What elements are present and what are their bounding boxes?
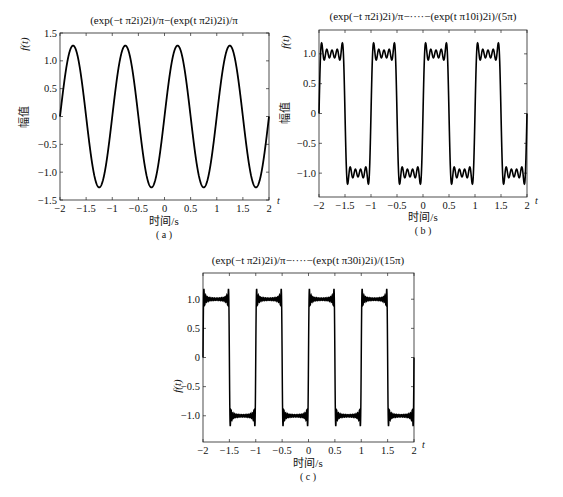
x-tick-label: −1.5	[77, 203, 96, 214]
panel-a-curve	[60, 46, 269, 188]
x-tick-label: 2	[524, 200, 529, 211]
x-tick-label: 2	[411, 445, 416, 456]
panel-b-curve	[319, 43, 527, 184]
panel-c-xlabel: 时间/s	[293, 457, 322, 469]
x-tick-label: −2	[197, 445, 208, 456]
panel-a-ytop-label: f(t)	[18, 37, 31, 51]
panel-c-title: (exp(−t π2i)2i)/π−····−(exp(t π30i)2i)/(…	[212, 254, 405, 267]
x-tick-label: 0	[162, 203, 167, 214]
y-tick-label: −0.5	[297, 138, 316, 149]
x-tick-label: −1	[365, 200, 376, 211]
x-tick-label: 1	[359, 445, 364, 456]
figure: (exp(−t π2i)2i)/π−(exp(t π2i)2i)/π −2−1.…	[0, 0, 563, 497]
x-tick-label: −1.5	[335, 200, 354, 211]
x-tick-label: 0.5	[442, 200, 455, 211]
y-tick-label: −1.0	[181, 410, 200, 421]
panel-b-t-label: t	[535, 195, 538, 206]
x-tick-label: −0.5	[129, 203, 148, 214]
panel-b-title: (exp(−t π2i)2i)/π−····−(exp(t π10i)2i)/(…	[330, 10, 517, 23]
y-tick-label: 1.0	[187, 294, 200, 305]
x-tick-label: 1	[472, 200, 477, 211]
x-tick-label: −2	[313, 200, 324, 211]
panel-a-caption: ( a )	[156, 229, 172, 241]
panel-c-ylabel: f(t)	[171, 379, 184, 393]
y-tick-label: 1.0	[303, 48, 316, 59]
y-tick-label: 1.5	[44, 28, 57, 39]
panel-c: (exp(−t π2i)2i)/π−····−(exp(t π30i)2i)/(…	[171, 254, 425, 483]
panel-c-curve	[203, 289, 414, 426]
y-tick-label: −0.5	[181, 381, 200, 392]
x-tick-label: −0.5	[387, 200, 406, 211]
x-tick-label: −1.5	[220, 445, 239, 456]
panel-b: (exp(−t π2i)2i)/π−····−(exp(t π10i)2i)/(…	[279, 10, 538, 237]
panel-a-ylabel: 幅值	[18, 106, 30, 128]
x-tick-label: 1.5	[494, 200, 507, 211]
panel-b-caption: ( b )	[415, 225, 432, 237]
y-tick-label: −1.5	[38, 195, 57, 206]
x-tick-label: −0.5	[273, 445, 292, 456]
x-tick-label: 1.5	[236, 203, 249, 214]
x-tick-label: 0.5	[328, 445, 341, 456]
y-tick-label: 0	[311, 108, 316, 119]
x-tick-label: 0	[420, 200, 425, 211]
y-tick-label: 0.5	[44, 83, 57, 94]
y-tick-label: 1.0	[44, 55, 57, 66]
panel-a: (exp(−t π2i)2i)/π−(exp(t π2i)2i)/π −2−1.…	[18, 14, 280, 241]
x-tick-label: 2	[266, 203, 271, 214]
x-tick-label: 1	[214, 203, 219, 214]
panel-a-ticks: −2−1.5−1−0.500.511.52−1.5−1.0−0.500.51.0…	[38, 28, 272, 215]
x-tick-label: 0	[306, 445, 311, 456]
x-tick-label: −1	[107, 203, 118, 214]
y-tick-label: 0.5	[303, 78, 316, 89]
panel-a-t-label: t	[277, 195, 280, 206]
panel-a-xlabel: 时间/s	[149, 215, 178, 227]
panel-b-xlabel: 时间/s	[408, 211, 437, 223]
panel-c-caption: ( c )	[300, 471, 316, 483]
panel-c-t-label: t	[422, 439, 425, 450]
x-tick-label: 0.5	[184, 203, 197, 214]
y-tick-label: 0	[195, 352, 200, 363]
panel-b-ylabel: 幅值	[279, 102, 291, 124]
x-tick-label: 1.5	[381, 445, 394, 456]
y-tick-label: −0.5	[38, 139, 57, 150]
y-tick-label: −1.0	[297, 168, 316, 179]
x-tick-label: −1	[250, 445, 261, 456]
panel-a-title: (exp(−t π2i)2i)/π−(exp(t π2i)2i)/π	[90, 14, 238, 27]
y-tick-label: 0.5	[187, 323, 200, 334]
panel-b-ytop-label: f(t)	[279, 35, 292, 49]
y-tick-label: 0	[52, 111, 57, 122]
y-tick-label: −1.0	[38, 167, 57, 178]
